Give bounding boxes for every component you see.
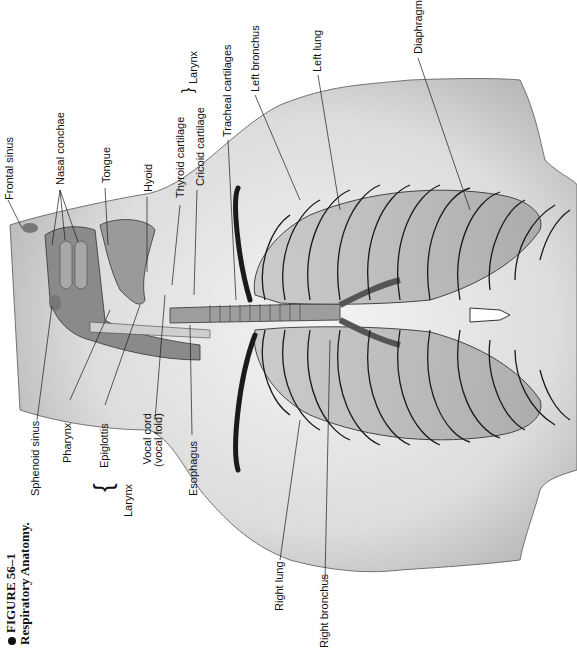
label-nasal-conchae: Nasal conchae <box>54 112 66 185</box>
label-left-bronchus: Left bronchus <box>249 25 261 92</box>
label-sphenoid-sinus: Sphenoid sinus <box>29 421 41 496</box>
figure-caption: FIGURE 56–1 Respiratory Anatomy. <box>4 522 32 645</box>
figure-number: FIGURE 56–1 <box>3 553 18 633</box>
label-cricoid-cartilage: Cricoid cartilage <box>194 107 206 186</box>
larynx-brace-top: } <box>182 88 194 93</box>
label-pharynx: Pharynx <box>61 423 73 463</box>
label-right-lung: Right lung <box>273 561 285 611</box>
sphenoid-sinus-shape <box>49 295 61 311</box>
label-right-bronchus: Right bronchus <box>318 574 330 648</box>
larynx-brace-bottom: { <box>90 483 116 492</box>
label-larynx-top: Larynx <box>187 51 199 84</box>
label-epiglottis: Epiglottis <box>98 423 110 468</box>
label-tongue: Tongue <box>100 147 112 183</box>
label-tracheal-cartilages: Tracheal cartilages <box>221 44 233 137</box>
label-left-lung: Left lung <box>311 30 323 72</box>
frontal-sinus-shape <box>22 223 38 233</box>
label-esophagus: Esophagus <box>187 441 199 496</box>
label-diaphragm: Diaphragm <box>412 0 424 54</box>
label-larynx-bottom: Larynx <box>122 484 134 517</box>
figure-title: Respiratory Anatomy. <box>18 522 32 645</box>
label-thyroid-cartilage: Thyroid cartilage <box>174 117 186 198</box>
respiratory-anatomy-illustration <box>0 0 577 649</box>
bullet-icon <box>8 637 16 645</box>
label-vocal-cord-line2: (vocal fold) <box>153 413 164 467</box>
label-vocal-cord: Vocal cord (vocal fold) <box>142 413 164 467</box>
label-hyoid: Hyoid <box>142 164 154 192</box>
label-frontal-sinus: Frontal sinus <box>3 137 15 200</box>
